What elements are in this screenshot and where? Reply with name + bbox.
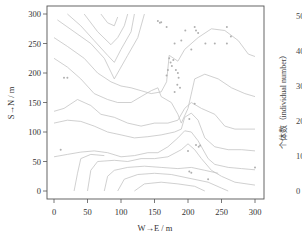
x-axis-label: W→E / m <box>138 223 173 233</box>
data-point <box>60 149 62 151</box>
right-y-tick-label: 0 <box>296 186 300 196</box>
data-point <box>63 77 65 79</box>
y-tick-label: 150 <box>28 98 41 108</box>
y-axis-ticks: 050100150200250300 <box>28 9 47 196</box>
right-panel-partial: 个体数（individual number） 01020304050 <box>278 11 302 196</box>
contour-line <box>134 182 204 191</box>
data-point <box>160 21 162 23</box>
data-point <box>179 87 181 89</box>
right-y-tick-label: 50 <box>296 11 302 21</box>
data-point <box>204 43 206 45</box>
data-point <box>66 77 68 79</box>
y-axis-label: S→N / m <box>6 86 16 119</box>
data-point <box>195 30 197 32</box>
x-tick-label: 200 <box>182 207 195 217</box>
data-points <box>60 20 256 180</box>
right-y-tick-label: 40 <box>296 46 302 56</box>
data-point <box>194 103 196 105</box>
y-tick-label: 300 <box>28 9 41 19</box>
x-axis-ticks: 050100150200250300 <box>52 199 262 217</box>
data-point <box>166 26 168 28</box>
contour-line <box>74 154 104 191</box>
contour-line <box>54 58 255 123</box>
data-point <box>172 59 174 61</box>
data-point <box>178 77 180 79</box>
data-point <box>230 35 232 37</box>
contour-lines <box>54 14 255 191</box>
data-point <box>194 26 196 28</box>
data-point <box>214 43 216 45</box>
data-point <box>207 178 209 180</box>
x-tick-label: 150 <box>148 207 161 217</box>
contour-line <box>118 173 229 191</box>
contour-line <box>104 166 218 191</box>
right-y-tick-label: 10 <box>296 151 302 161</box>
y-tick-label: 50 <box>33 157 42 167</box>
x-tick-label: 250 <box>215 207 228 217</box>
y-tick-label: 200 <box>28 68 41 78</box>
data-point <box>174 43 176 45</box>
y-tick-label: 250 <box>28 39 41 49</box>
data-point <box>157 20 159 22</box>
contour-line <box>84 14 128 45</box>
right-y-tick-label: 30 <box>296 81 302 91</box>
data-point <box>190 48 192 50</box>
data-point <box>174 91 176 93</box>
y-tick-label: 0 <box>37 186 41 196</box>
data-point <box>177 72 179 74</box>
data-point <box>226 26 228 28</box>
data-point <box>171 65 173 67</box>
contour-line <box>101 14 118 26</box>
data-point <box>184 30 186 32</box>
contour-line <box>54 113 255 151</box>
data-point <box>180 40 182 42</box>
data-point <box>166 74 168 76</box>
data-point <box>226 43 228 45</box>
x-tick-label: 100 <box>115 207 128 217</box>
data-point <box>175 69 177 71</box>
data-point <box>168 57 170 59</box>
y-tick-label: 100 <box>28 127 41 137</box>
right-y-tick-label: 20 <box>296 116 302 126</box>
right-y-axis-label: 个体数（individual number） <box>278 51 288 150</box>
contour-chart: 050100150200250300 050100150200250300 W→… <box>0 0 302 244</box>
data-point <box>187 150 189 152</box>
right-y-axis-ticks: 01020304050 <box>296 11 302 196</box>
x-tick-label: 0 <box>52 207 56 217</box>
plot-frame <box>47 6 264 199</box>
contour-line <box>54 131 255 170</box>
data-point <box>176 84 178 86</box>
data-point <box>188 118 190 120</box>
contour-line <box>54 100 255 130</box>
data-point <box>167 69 169 71</box>
data-point <box>190 172 192 174</box>
data-point <box>199 145 201 147</box>
x-tick-label: 50 <box>83 207 92 217</box>
data-point <box>254 166 256 168</box>
contour-line <box>57 14 144 79</box>
data-point <box>197 32 199 34</box>
data-point <box>188 171 190 173</box>
x-tick-label: 300 <box>249 207 262 217</box>
data-point <box>170 61 172 63</box>
data-point <box>195 144 197 146</box>
